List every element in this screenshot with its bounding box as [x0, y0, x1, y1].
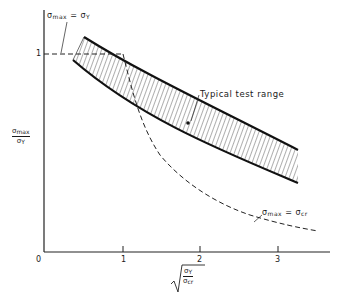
y-tick-label-1: 1: [36, 50, 42, 58]
test-range-annotation: Typical test range: [200, 90, 284, 99]
yield-annotation: σmax = σY: [47, 12, 90, 20]
x-tick-label-1: 1: [121, 256, 127, 264]
x-origin-label: 0: [36, 256, 42, 264]
y-label-denominator: σY: [17, 138, 25, 145]
subscript-y: Y: [188, 268, 192, 275]
y-label-numerator: σmax: [12, 128, 30, 135]
yield-label-leader: [61, 22, 67, 53]
diagram-canvas: [0, 0, 342, 301]
x-label-numerator: σY: [184, 268, 192, 275]
equals-sigma: = σ: [67, 11, 86, 20]
subscript-y: Y: [86, 13, 90, 20]
subscript-y: Y: [21, 138, 25, 145]
x-axis-label: σY σcr: [183, 268, 193, 285]
x-tick-label-2: 2: [197, 256, 203, 264]
test-range-band: [73, 37, 298, 183]
test-range-marker-dot: [186, 121, 190, 125]
subscript-cr: cr: [187, 278, 193, 285]
x-tick-label-3: 3: [275, 256, 281, 264]
subscript-max: max: [16, 128, 29, 135]
y-axis-label: σmax σY: [12, 128, 30, 145]
equals-sigma: = σ: [282, 208, 301, 217]
buckling-annotation: σmax = σcr: [262, 209, 308, 217]
x-label-denominator: σcr: [183, 278, 193, 285]
subscript-max: max: [268, 210, 283, 217]
subscript-cr: cr: [301, 210, 308, 217]
subscript-max: max: [53, 13, 68, 20]
